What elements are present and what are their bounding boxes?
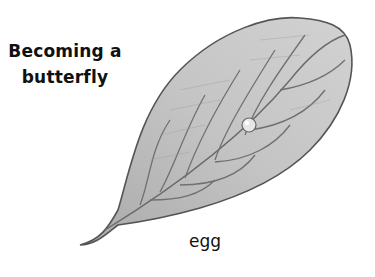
leaf-body [80,18,352,245]
leaf-illustration [0,0,375,277]
egg-icon [242,118,256,132]
egg-label: egg [189,231,221,251]
